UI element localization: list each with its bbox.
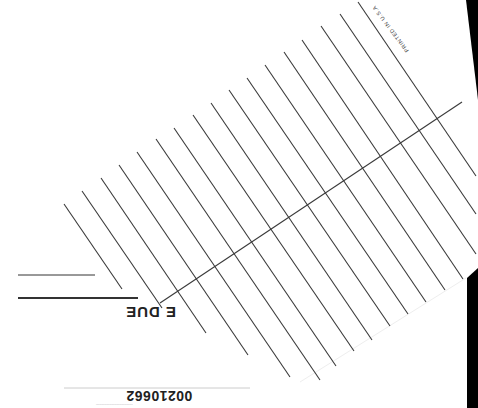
- rule-line: [119, 165, 248, 355]
- rule-line: [64, 204, 122, 289]
- date-due-heading: E DUE: [112, 303, 176, 321]
- rule-line: [211, 103, 372, 340]
- barcode-number: 00210662: [126, 388, 192, 404]
- rule-line: [156, 139, 320, 380]
- rule-line: [265, 65, 426, 302]
- scanner-background-top: [466, 0, 478, 100]
- card-edge: [300, 278, 466, 382]
- rule-line: [229, 90, 390, 326]
- barcode-fineprint: ........................................…: [96, 403, 133, 407]
- rule-line: [247, 78, 408, 314]
- rule-line: [193, 115, 354, 351]
- date-rule-lines: [64, 2, 476, 380]
- scanner-background-bottom: [467, 268, 478, 408]
- rule-line: [340, 14, 476, 214]
- rule-line: [174, 128, 336, 366]
- scanned-date-due-card: [0, 0, 478, 408]
- rule-line: [284, 52, 445, 290]
